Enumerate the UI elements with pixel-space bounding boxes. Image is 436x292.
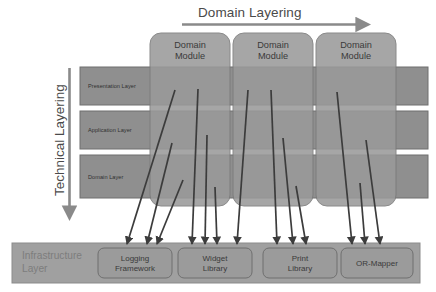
arrow-module3-to-ormapper-2: [360, 183, 365, 244]
infra-label-or-mapper: OR-Mapper: [341, 259, 413, 269]
technical-layer-label-application: Application Layer: [88, 127, 132, 133]
arrow-module2-to-print-2: [283, 138, 293, 244]
arrow-module3-to-ormapper-3: [366, 140, 380, 244]
arrow-module1-to-widget-3: [215, 187, 217, 244]
arrow-module1-to-logging: [127, 90, 175, 244]
arrow-module1-to-logging-2: [147, 143, 172, 244]
infra-label-logging-framework: Logging Framework: [98, 254, 172, 273]
arrow-module2-to-print-3: [296, 186, 306, 244]
arrow-module1-to-widget-2: [205, 135, 207, 244]
technical-layering-title: Technical Layering: [52, 84, 67, 196]
arrow-module3-to-ormapper: [337, 92, 352, 244]
arrow-module2-to-widget: [237, 90, 248, 244]
technical-layer-label-presentation: Presentation Layer: [88, 83, 136, 89]
technical-layer-label-domain: Domain Layer: [88, 174, 123, 180]
arrow-module1-to-widget: [192, 89, 198, 244]
domain-module-label-3: Domain Module: [316, 40, 396, 62]
infrastructure-layer-title: Infrastructure Layer: [22, 249, 82, 275]
domain-module-label-1: Domain Module: [150, 40, 230, 62]
diagram-canvas: Domain Layering Technical Layering Domai…: [0, 0, 436, 292]
domain-module-label-2: Domain Module: [233, 40, 313, 62]
infra-label-print-library: Print Library: [263, 254, 337, 273]
arrow-module2-to-print: [271, 90, 277, 244]
infra-label-widget-library: Widget Library: [178, 254, 252, 273]
domain-layering-title: Domain Layering: [198, 5, 302, 20]
